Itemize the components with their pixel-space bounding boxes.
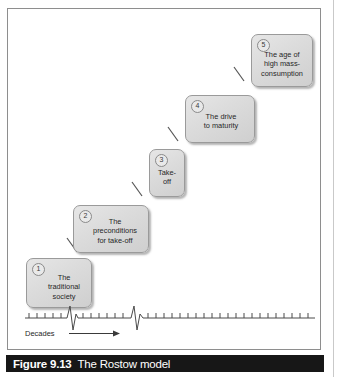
stage-number-3: 3 xyxy=(155,154,168,167)
scan-edge-line xyxy=(333,0,334,377)
axis-label-decades: Decades xyxy=(25,329,55,338)
figure-number: Figure 9.13 xyxy=(13,358,72,370)
stage-box-3[interactable]: 3 Take- off xyxy=(149,149,185,197)
stage-box-4[interactable]: 4 The drive to maturity xyxy=(185,95,255,143)
figure-title: The Rostow model xyxy=(78,358,171,370)
stage-label-4: The drive to maturity xyxy=(190,112,252,131)
figure-frame: 1 The traditional society 2 The precondi… xyxy=(7,8,321,350)
stage-label-3: Take- off xyxy=(150,168,184,187)
figure-caption-bar: Figure 9.13 The Rostow model xyxy=(6,355,324,372)
connector-3-4 xyxy=(168,127,178,141)
axis-break-mark-1 xyxy=(67,306,78,330)
stage-label-5: The age of high mass- consumption xyxy=(254,50,310,78)
stage-label-2: The preconditions for take-off xyxy=(84,217,146,245)
stage-box-2[interactable]: 2 The preconditions for take-off xyxy=(73,205,149,253)
connector-4-5 xyxy=(234,67,244,81)
axis-arrow-head-icon xyxy=(113,331,120,337)
stage-box-5[interactable]: 5 The age of high mass- consumption xyxy=(251,34,313,87)
figure-page: 1 The traditional society 2 The precondi… xyxy=(0,0,339,377)
time-axis-graphic: Decades xyxy=(7,300,321,350)
connector-2-3 xyxy=(132,182,142,196)
time-axis: Decades xyxy=(7,300,321,350)
axis-break-mark-2 xyxy=(131,306,143,330)
stage-label-1: The traditional society xyxy=(39,273,89,301)
